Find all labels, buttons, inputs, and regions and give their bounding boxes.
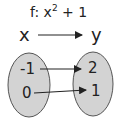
domain-label: x — [19, 26, 30, 44]
mapping-diagram: f: x2 + 1 x y -1 0 2 1 — [0, 0, 120, 137]
codomain-value: 1 — [91, 84, 101, 99]
title-suffix: + 1 — [58, 4, 88, 20]
domain-value: 0 — [22, 86, 32, 101]
diagram-graphics — [0, 0, 120, 137]
codomain-label: y — [91, 26, 102, 44]
codomain-value: 2 — [88, 61, 98, 76]
function-title: f: x2 + 1 — [30, 4, 87, 19]
title-prefix: f: x — [30, 4, 52, 20]
domain-value: -1 — [20, 62, 35, 77]
